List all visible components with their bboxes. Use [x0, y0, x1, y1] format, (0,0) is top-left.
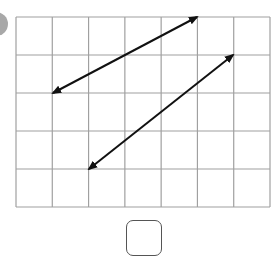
answer-box[interactable]: [126, 220, 162, 256]
